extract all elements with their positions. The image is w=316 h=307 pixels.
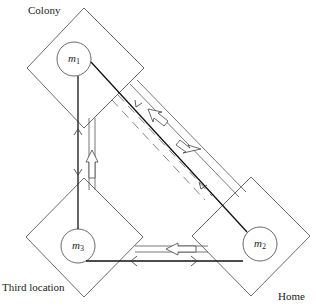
mass-transfer-diagram: Colony Home Third location m1 m3 m2 <box>0 0 316 307</box>
colony-region <box>27 8 144 128</box>
hollow-arrow-up-left-icon <box>148 109 168 126</box>
home-region <box>192 177 310 296</box>
third-location-label: Third location <box>2 281 65 293</box>
m1-m2-link <box>91 62 247 232</box>
m1-label: m1 <box>68 52 80 66</box>
hollow-arrow-up-icon <box>86 150 98 178</box>
third-location-region <box>26 178 143 297</box>
colony-label: Colony <box>28 4 61 16</box>
home-label: Home <box>278 290 305 302</box>
m3-label: m3 <box>72 239 84 253</box>
hollow-arrow-left-icon <box>166 243 196 255</box>
m2-label: m2 <box>254 237 266 251</box>
arrowhead-up-left-icon <box>135 100 142 107</box>
